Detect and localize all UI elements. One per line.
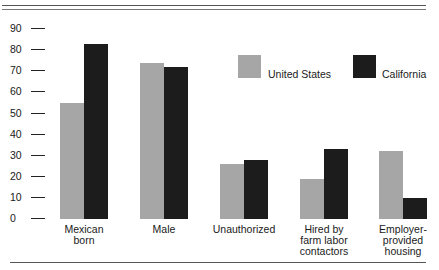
y-tick-mark [31, 70, 45, 71]
y-tick-50: 50 [10, 108, 46, 118]
bar-united-states-2 [220, 164, 244, 219]
x-category-label: Employer- provided housing [363, 224, 439, 257]
bar-california-3 [324, 149, 348, 219]
y-tick-label: 20 [10, 171, 30, 181]
bar-chart: 0102030405060708090Mexican bornMaleUnaut… [0, 0, 439, 270]
x-category-label: Hired by farm labor contactors [284, 224, 364, 257]
bar-california-0 [84, 44, 108, 219]
y-tick-label: 10 [10, 192, 30, 202]
x-category-label: Mexican born [44, 224, 124, 246]
y-tick-label: 40 [10, 129, 30, 139]
y-tick-10: 10 [10, 192, 46, 202]
y-tick-mark [31, 155, 45, 156]
y-tick-label: 70 [10, 65, 30, 75]
y-tick-80: 80 [10, 44, 46, 54]
y-tick-mark [31, 28, 45, 29]
bar-california-2 [244, 160, 268, 219]
y-tick-mark [31, 91, 45, 92]
y-tick-20: 20 [10, 171, 46, 181]
y-tick-40: 40 [10, 129, 46, 139]
legend-swatch-united-states [238, 55, 261, 78]
bar-california-1 [164, 67, 188, 219]
y-tick-mark [31, 176, 45, 177]
y-tick-label: 0 [10, 213, 30, 223]
y-tick-mark [31, 134, 45, 135]
bottom-rule [10, 262, 426, 263]
legend-label-united-states: United States [268, 68, 331, 80]
bar-united-states-1 [140, 63, 164, 219]
y-tick-30: 30 [10, 150, 46, 160]
x-category-label: Male [124, 224, 204, 235]
bar-california-4 [403, 198, 427, 219]
y-tick-label: 30 [10, 150, 30, 160]
bar-united-states-0 [60, 103, 84, 219]
y-tick-mark [31, 113, 45, 114]
y-tick-label: 90 [10, 23, 30, 33]
y-tick-label: 80 [10, 44, 30, 54]
y-tick-label: 60 [10, 86, 30, 96]
legend-swatch-california [353, 55, 376, 78]
y-tick-60: 60 [10, 86, 46, 96]
y-tick-label: 50 [10, 108, 30, 118]
x-category-label: Unauthorized [204, 224, 284, 235]
y-tick-mark [31, 218, 45, 219]
y-tick-mark [31, 197, 45, 198]
bar-united-states-3 [300, 179, 324, 219]
bar-united-states-4 [379, 151, 403, 219]
y-tick-90: 90 [10, 23, 46, 33]
y-tick-0: 0 [10, 213, 46, 223]
legend-label-california: California [382, 68, 426, 80]
y-tick-mark [31, 49, 45, 50]
y-tick-70: 70 [10, 65, 46, 75]
